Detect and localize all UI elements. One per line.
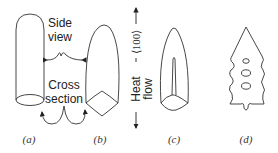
panel-b-shape <box>86 25 119 116</box>
cross-section-label-2: section <box>45 92 83 106</box>
side-view-label-1: Side <box>48 16 72 30</box>
heat-flow-label-2: flow <box>141 78 155 100</box>
cross-section-label-1: Cross <box>48 78 79 92</box>
dendrite-diagram: Side view Cross section ⟨100⟩ Heat flow … <box>0 0 278 153</box>
direction-label: ⟨100⟩ <box>130 30 142 55</box>
side-view-label-2: view <box>48 30 72 44</box>
panel-c-label: (c) <box>168 133 181 146</box>
panel-a-shape <box>16 14 44 106</box>
panel-a-label: (a) <box>23 133 36 146</box>
side-view-arrows <box>47 53 82 60</box>
panel-b-label: (b) <box>94 133 107 146</box>
panel-d-shape <box>229 27 264 110</box>
panel-d-label: (d) <box>240 133 253 146</box>
panel-c-shape <box>160 28 188 110</box>
cross-section-arrows <box>42 106 85 124</box>
